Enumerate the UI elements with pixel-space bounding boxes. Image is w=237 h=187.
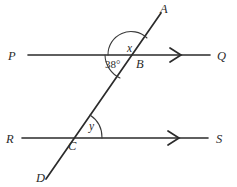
line-transversal-ad	[46, 13, 161, 179]
label-point-r: R	[5, 132, 14, 146]
label-angle-38: 38°	[105, 58, 120, 70]
label-point-c: C	[68, 139, 77, 153]
label-angle-y: y	[88, 120, 95, 133]
label-point-b: B	[136, 57, 144, 71]
label-point-a: A	[159, 2, 168, 16]
label-point-d: D	[35, 171, 45, 185]
label-point-q: Q	[217, 49, 226, 63]
geometry-figure: P Q R S A D B C x 38° y	[0, 0, 237, 187]
label-point-p: P	[7, 49, 16, 63]
label-angle-x: x	[126, 42, 133, 54]
geometry-canvas: P Q R S A D B C x 38° y	[0, 0, 237, 187]
label-point-s: S	[216, 132, 223, 146]
